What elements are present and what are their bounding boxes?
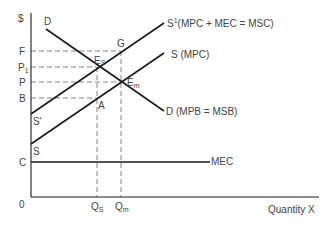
demand-label: D (MPB = MSB): [166, 106, 237, 117]
point-Em: Em: [127, 77, 140, 89]
point-A: A: [98, 100, 105, 111]
demand-start-label: D: [44, 16, 51, 27]
x-axis-label: Quantity X: [268, 204, 315, 215]
origin-label: 0: [19, 199, 25, 210]
social-supply-start-label: S': [33, 116, 42, 127]
social-supply-label: S1(MPC + MEC = MSC): [167, 17, 274, 29]
demand-curve: [46, 29, 164, 111]
y-tick-B: B: [19, 93, 26, 104]
private-supply-label: S (MPC): [171, 49, 209, 60]
x-tick-Qm: Qm: [115, 201, 129, 213]
y-tick-P1: P1: [18, 62, 29, 74]
axes: [31, 13, 319, 197]
externality-diagram: $ 0 Quantity X F P1 P B C QS Qm D D (MPB…: [0, 0, 336, 226]
y-tick-P: P: [19, 77, 26, 88]
point-Es: ES: [94, 55, 106, 66]
y-tick-C: C: [19, 157, 26, 168]
mec-label: MEC: [211, 156, 233, 167]
private-supply-start-label: S: [33, 146, 40, 157]
x-tick-Qs: QS: [91, 201, 104, 213]
guide-lines: [31, 51, 121, 197]
point-G: G: [117, 38, 125, 49]
y-axis-label: $: [18, 13, 24, 24]
y-tick-F: F: [19, 46, 25, 57]
